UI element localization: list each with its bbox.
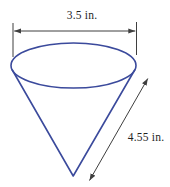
slant-arrow-line [90, 79, 148, 181]
cone-top-ellipse [11, 43, 136, 88]
slant-dimension [90, 79, 148, 181]
cone-outline [11, 43, 136, 176]
cone-figure: 3.5 in. 4.55 in. [0, 0, 170, 187]
diameter-label: 3.5 in. [67, 9, 97, 21]
cone-diagram-svg: 3.5 in. 4.55 in. [0, 0, 170, 187]
slant-label: 4.55 in. [128, 131, 164, 143]
